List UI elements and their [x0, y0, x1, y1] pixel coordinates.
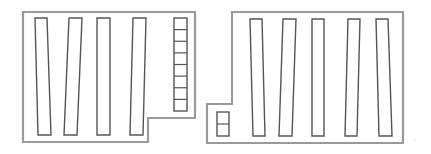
- right-shelf-5: [376, 19, 392, 136]
- left-shelf-4: [130, 18, 146, 135]
- right-bin-stack: [217, 112, 229, 136]
- left-bin-stack: [174, 18, 187, 111]
- right-shelf-4: [345, 19, 360, 136]
- left-shelf-1: [35, 18, 51, 135]
- right-shelf-2: [279, 19, 296, 136]
- right-room: [207, 12, 403, 143]
- left-shelf-2: [64, 18, 82, 135]
- scan-speck: [414, 139, 416, 141]
- right-shelf-1: [250, 19, 265, 136]
- left-shelf-3: [97, 18, 110, 135]
- floor-plan-diagram: [0, 0, 431, 154]
- right-room-wall: [207, 12, 403, 143]
- left-room: [23, 12, 195, 142]
- right-shelf-3: [312, 19, 324, 136]
